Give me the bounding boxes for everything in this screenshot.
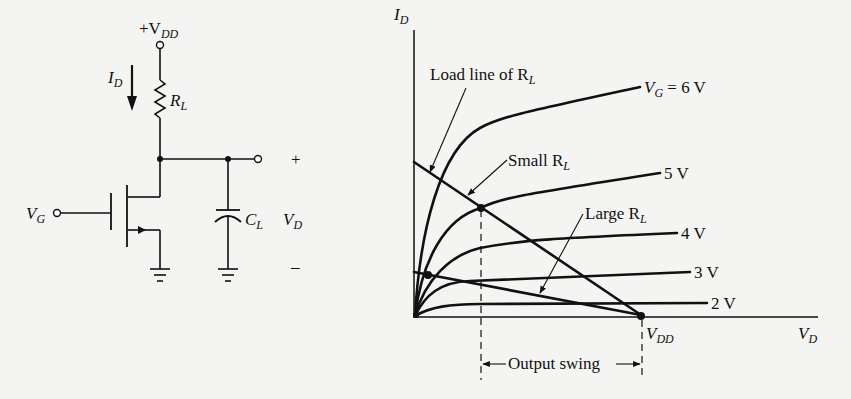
curve-vg-3v	[415, 272, 690, 316]
vdd-axis-label: VDD	[646, 324, 674, 346]
vdd-terminal	[157, 42, 164, 49]
curve-label-2v: 2 V	[711, 294, 736, 313]
curve-vg-6v	[415, 87, 640, 316]
capacitor-label: CL	[245, 210, 263, 232]
annotation-large-rl: Large RL	[585, 204, 647, 226]
annotation-load-line: Load line of RL	[430, 65, 536, 87]
ground-icon	[150, 269, 170, 281]
minus-sign: –	[290, 257, 300, 276]
resistor-icon	[155, 80, 165, 118]
output-voltage-label: VD	[283, 210, 302, 232]
current-label: ID	[107, 68, 123, 90]
curve-label-3v: 3 V	[694, 263, 719, 282]
vdd-label: +VDD	[139, 19, 179, 41]
y-axis-label: ID	[393, 5, 409, 27]
plus-sign: +	[291, 150, 301, 169]
load-line-small-rl	[414, 162, 641, 315]
ground-icon	[218, 269, 238, 281]
resistor-label: RL	[169, 91, 187, 113]
circuit-schematic: +VDD RL ID + – VG	[26, 19, 302, 281]
annotation-small-rl: Small RL	[508, 151, 570, 173]
curve-label-4v: 4 V	[681, 224, 706, 243]
gate-terminal	[54, 210, 61, 217]
current-arrow-head-icon	[127, 96, 137, 111]
output-terminal	[255, 156, 262, 163]
arrow-icon	[430, 88, 466, 172]
curve-label-6v: VG = 6 V	[644, 78, 707, 100]
x-axis-label: VD	[798, 324, 817, 346]
iv-chart: ID VD VG = 6 V 5 V 4 V 3 V 2 V Load line…	[393, 5, 818, 380]
vdd-point	[637, 312, 645, 320]
curve-vg-2v	[415, 303, 707, 316]
operating-point-large-rl	[424, 271, 432, 279]
arrow-icon	[540, 214, 583, 293]
figure: +VDD RL ID + – VG	[0, 0, 851, 399]
curve-label-5v: 5 V	[664, 164, 689, 183]
arrow-icon	[468, 160, 507, 195]
output-swing-label: Output swing	[508, 354, 601, 373]
origin-point	[413, 312, 419, 318]
source-arrow-icon	[138, 226, 146, 234]
gate-label: VG	[26, 204, 45, 226]
